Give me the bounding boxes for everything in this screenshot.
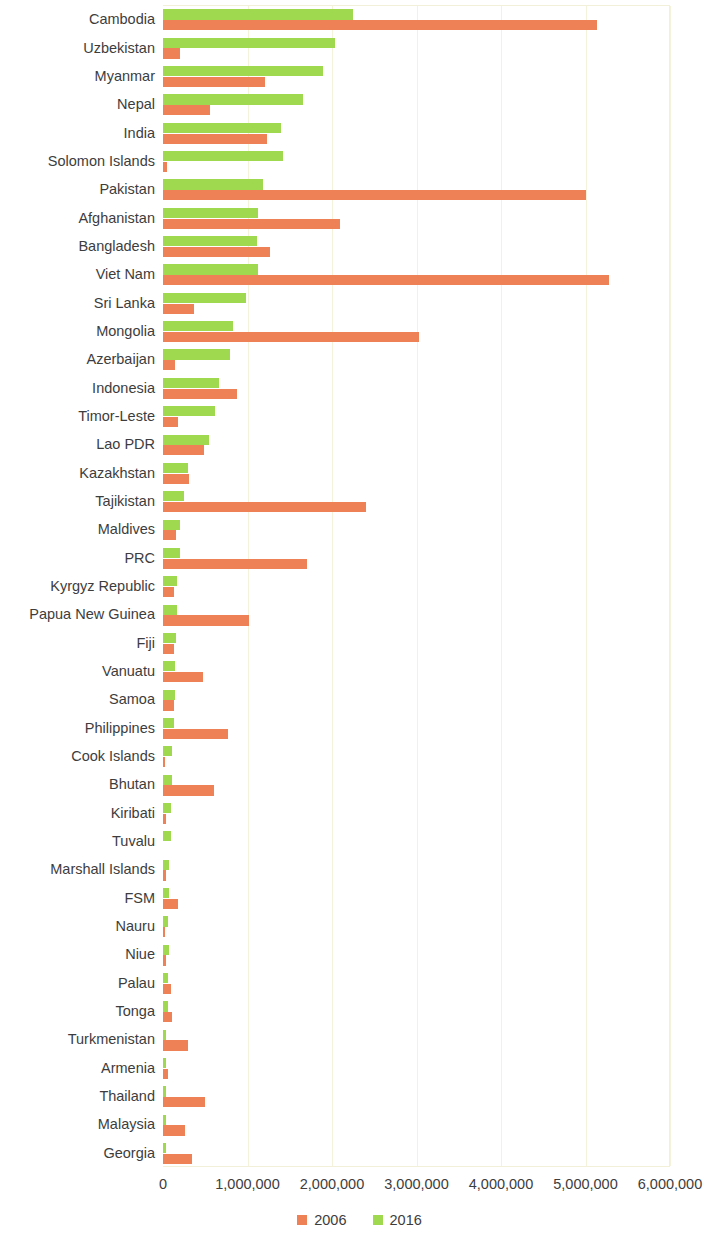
bar-2006[interactable] — [163, 757, 165, 767]
bar-2006[interactable] — [163, 474, 189, 484]
bar-2006[interactable] — [163, 1012, 172, 1022]
bar-2006[interactable] — [163, 275, 609, 285]
bar-2016[interactable] — [163, 520, 180, 530]
y-axis-label: Tonga — [0, 1004, 155, 1019]
bar-2016[interactable] — [163, 576, 177, 586]
bar-2006[interactable] — [163, 1125, 185, 1135]
bar-2016[interactable] — [163, 38, 335, 48]
y-axis-label: Myanmar — [0, 69, 155, 84]
bar-row — [163, 289, 669, 317]
bar-2016[interactable] — [163, 1115, 166, 1125]
bar-2006[interactable] — [163, 587, 174, 597]
bar-2016[interactable] — [163, 945, 169, 955]
bar-2006[interactable] — [163, 247, 270, 257]
bar-2006[interactable] — [163, 219, 340, 229]
bar-2016[interactable] — [163, 831, 171, 841]
bar-2006[interactable] — [163, 190, 586, 200]
bar-2016[interactable] — [163, 208, 258, 218]
bar-2006[interactable] — [163, 927, 165, 937]
bar-2006[interactable] — [163, 644, 174, 654]
bar-2016[interactable] — [163, 151, 283, 161]
bar-2016[interactable] — [163, 66, 323, 76]
bar-2006[interactable] — [163, 304, 194, 314]
bar-2006[interactable] — [163, 502, 366, 512]
legend-item[interactable]: 2006 — [297, 1212, 346, 1228]
bar-2016[interactable] — [163, 661, 175, 671]
bar-2016[interactable] — [163, 1143, 166, 1153]
bar-2006[interactable] — [163, 48, 180, 58]
gridline — [670, 6, 671, 1166]
y-axis-label: Lao PDR — [0, 437, 155, 452]
bar-2016[interactable] — [163, 293, 246, 303]
bar-2006[interactable] — [163, 77, 265, 87]
bar-2016[interactable] — [163, 1030, 166, 1040]
legend-item[interactable]: 2016 — [373, 1212, 422, 1228]
bar-2006[interactable] — [163, 530, 176, 540]
bar-2006[interactable] — [163, 360, 175, 370]
bar-2016[interactable] — [163, 775, 172, 785]
bar-row — [163, 1026, 669, 1054]
bar-2016[interactable] — [163, 321, 233, 331]
bar-2016[interactable] — [163, 605, 177, 615]
bar-2006[interactable] — [163, 729, 228, 739]
bar-2016[interactable] — [163, 916, 168, 926]
bar-2016[interactable] — [163, 123, 281, 133]
bar-2016[interactable] — [163, 973, 168, 983]
bar-2016[interactable] — [163, 463, 188, 473]
bar-2006[interactable] — [163, 984, 171, 994]
bar-2016[interactable] — [163, 548, 180, 558]
bar-2016[interactable] — [163, 378, 219, 388]
bar-2006[interactable] — [163, 559, 307, 569]
y-axis-label: Solomon Islands — [0, 154, 155, 169]
y-axis-label: Thailand — [0, 1089, 155, 1104]
bar-row — [163, 573, 669, 601]
bar-2006[interactable] — [163, 672, 203, 682]
bar-2016[interactable] — [163, 888, 169, 898]
bar-2016[interactable] — [163, 746, 172, 756]
bar-2016[interactable] — [163, 1058, 166, 1068]
bar-2016[interactable] — [163, 1086, 166, 1096]
bar-row — [163, 346, 669, 374]
bar-2016[interactable] — [163, 1001, 168, 1011]
bar-2006[interactable] — [163, 389, 237, 399]
y-axis-label: Philippines — [0, 721, 155, 736]
plot-area — [163, 5, 670, 1167]
bar-2006[interactable] — [163, 700, 174, 710]
bar-2006[interactable] — [163, 1069, 168, 1079]
bar-2016[interactable] — [163, 491, 184, 501]
bar-2016[interactable] — [163, 690, 175, 700]
bar-2006[interactable] — [163, 615, 249, 625]
bar-row — [163, 913, 669, 941]
bar-2006[interactable] — [163, 105, 210, 115]
bar-row — [163, 91, 669, 119]
bar-2006[interactable] — [163, 1097, 205, 1107]
bar-2006[interactable] — [163, 899, 178, 909]
bar-2016[interactable] — [163, 9, 353, 19]
bar-2016[interactable] — [163, 236, 257, 246]
bar-2016[interactable] — [163, 860, 169, 870]
bar-2016[interactable] — [163, 349, 230, 359]
bar-2006[interactable] — [163, 162, 167, 172]
bar-2006[interactable] — [163, 1040, 188, 1050]
bar-2016[interactable] — [163, 94, 303, 104]
bar-2016[interactable] — [163, 179, 263, 189]
bar-2016[interactable] — [163, 633, 176, 643]
bar-row — [163, 856, 669, 884]
bar-2016[interactable] — [163, 406, 215, 416]
bar-2016[interactable] — [163, 803, 171, 813]
bar-row — [163, 970, 669, 998]
bar-2006[interactable] — [163, 332, 419, 342]
bar-2006[interactable] — [163, 445, 204, 455]
bar-2006[interactable] — [163, 955, 166, 965]
bar-2016[interactable] — [163, 435, 209, 445]
bar-2006[interactable] — [163, 417, 178, 427]
bar-2006[interactable] — [163, 20, 597, 30]
bar-2016[interactable] — [163, 264, 258, 274]
bar-2006[interactable] — [163, 814, 166, 824]
bar-2006[interactable] — [163, 870, 166, 880]
bar-row — [163, 601, 669, 629]
bar-2016[interactable] — [163, 718, 174, 728]
bar-2006[interactable] — [163, 785, 214, 795]
bar-2006[interactable] — [163, 1154, 192, 1164]
bar-2006[interactable] — [163, 134, 267, 144]
